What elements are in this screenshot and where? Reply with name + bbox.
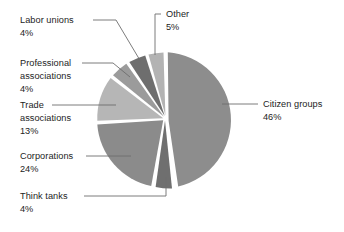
label-corporations-name: Corporations bbox=[20, 151, 74, 161]
label-labor-unions-name: Labor unions bbox=[20, 15, 74, 25]
label-trade-associations-percent: 13% bbox=[20, 126, 38, 136]
label-professional-associations-line1: Professional bbox=[20, 58, 71, 68]
label-think-tanks-name: Think tanks bbox=[20, 191, 68, 201]
label-citizen-groups-name: Citizen groups bbox=[263, 99, 323, 109]
label-professional-associations-percent: 4% bbox=[20, 84, 33, 94]
label-other-percent: 5% bbox=[166, 22, 179, 32]
label-trade-associations-line1: Trade bbox=[20, 100, 44, 110]
label-labor-unions-percent: 4% bbox=[20, 28, 33, 38]
label-corporations-percent: 24% bbox=[20, 164, 38, 174]
label-professional-associations-line2: associations bbox=[20, 71, 72, 81]
pie-chart-figure: Labor unions 4% Professional association… bbox=[0, 0, 344, 232]
label-think-tanks-percent: 4% bbox=[20, 204, 33, 214]
label-other-name: Other bbox=[166, 9, 189, 19]
label-trade-associations-line2: associations bbox=[20, 113, 72, 123]
label-citizen-groups-percent: 46% bbox=[263, 112, 281, 122]
pie-chart-canvas: Labor unions 4% Professional association… bbox=[0, 0, 344, 232]
